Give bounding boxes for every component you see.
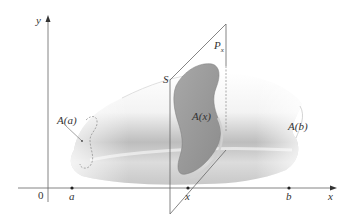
solid-label: S [163,73,169,85]
y-axis-label: y [35,14,41,26]
x-axis-label: x [327,190,333,202]
x-point-label: x [184,190,190,202]
b-label: b [286,190,292,202]
cross-section-a-label: A(a) [56,114,77,127]
a-label: a [69,190,75,202]
cross-section-b-label: A(b) [287,120,308,133]
cross-section-x-label: A(x) [191,110,211,123]
origin-label: 0 [38,189,44,201]
plane-label: Px [213,39,225,54]
y-axis-arrow-icon [46,15,51,22]
solid-cross-section-diagram: y 0 a x b x S Px A(x) A(a) A(b) [0,0,352,218]
y-axis [46,15,51,202]
